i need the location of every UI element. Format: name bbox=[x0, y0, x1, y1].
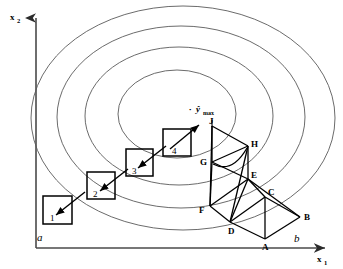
contour-2 bbox=[57, 26, 305, 208]
square-label-3: 3 bbox=[132, 166, 137, 176]
vertex-label-G: G bbox=[200, 157, 207, 167]
simplex-edge-BC bbox=[265, 197, 300, 217]
y-axis-label-subscript: 2 bbox=[17, 17, 20, 24]
figure-container: x 2 x 1 a b · ŷ max 1 2 3 4 A B C D E F … bbox=[0, 0, 343, 269]
y-axis-label: x bbox=[10, 12, 15, 22]
optimum-label: ŷ bbox=[195, 104, 201, 114]
contour-outer-1 bbox=[31, 6, 335, 230]
axes-group bbox=[36, 18, 325, 248]
squares-group bbox=[43, 129, 191, 224]
contour-3 bbox=[85, 47, 273, 185]
x-axis-label: x bbox=[317, 254, 322, 264]
square-2 bbox=[87, 172, 115, 199]
contour-group bbox=[31, 6, 335, 230]
vertex-label-E: E bbox=[251, 170, 257, 180]
vertex-label-A: A bbox=[262, 242, 269, 252]
simplex-edge-AD bbox=[230, 222, 265, 239]
vertex-label-F: F bbox=[199, 205, 205, 215]
labels-group: x 2 x 1 a b · ŷ max 1 2 3 4 A B C D E F … bbox=[10, 12, 327, 266]
vertex-label-J: J bbox=[209, 116, 214, 126]
x-axis-label-subscript: 1 bbox=[324, 259, 327, 266]
vertex-label-D: D bbox=[228, 226, 235, 236]
square-label-1: 1 bbox=[50, 213, 55, 223]
simplex-edge-EC bbox=[248, 179, 265, 197]
vertex-label-B: B bbox=[304, 212, 310, 222]
simplex-reflection-arc bbox=[213, 148, 247, 167]
vertex-label-H: H bbox=[251, 139, 258, 149]
vertex-label-C: C bbox=[268, 187, 275, 197]
square-label-2: 2 bbox=[93, 189, 98, 199]
simplex-edge-EB bbox=[248, 179, 300, 217]
square-1 bbox=[43, 196, 72, 224]
optimum-marker: · bbox=[189, 104, 191, 114]
square-label-4: 4 bbox=[172, 146, 177, 156]
simplex-edge-JH bbox=[212, 126, 248, 146]
panel-label-b: b bbox=[294, 232, 300, 244]
response-surface-figure: x 2 x 1 a b · ŷ max 1 2 3 4 A B C D E F … bbox=[0, 0, 343, 269]
contour-inner-4 bbox=[118, 70, 236, 158]
panel-label-a: a bbox=[37, 231, 43, 243]
simplex-edge-DF bbox=[210, 206, 230, 222]
